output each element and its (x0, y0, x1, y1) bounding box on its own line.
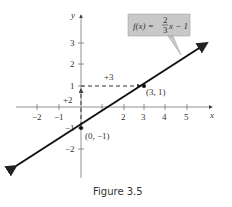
svg-text:y: y (70, 10, 75, 20)
svg-text:3: 3 (163, 25, 168, 35)
svg-text:−2: −2 (65, 144, 75, 154)
svg-text:2: 2 (121, 112, 126, 122)
run-label: +3 (104, 72, 114, 82)
svg-text:x: x (209, 110, 214, 120)
svg-text:1: 1 (70, 81, 75, 91)
svg-text:2: 2 (163, 15, 168, 25)
chart: −2−1 23 45 x 32 1−1 −2 y +3 +2 (0, −1) (… (0, 0, 232, 207)
rise-label: +2 (63, 95, 73, 105)
point-label-3-1: (3, 1) (146, 87, 166, 97)
svg-text:3: 3 (70, 38, 75, 48)
svg-text:2: 2 (70, 59, 75, 69)
svg-text:f(x) =: f(x) = (133, 21, 154, 31)
equation-callout: f(x) = 2 3 x − 1 (128, 14, 190, 55)
svg-text:−1: −1 (54, 112, 64, 122)
svg-text:−2: −2 (32, 112, 42, 122)
svg-text:3: 3 (141, 112, 146, 122)
point-label-0-neg1: (0, −1) (85, 131, 110, 141)
svg-text:x − 1: x − 1 (168, 21, 188, 31)
point-0-neg1 (79, 126, 83, 130)
function-line (16, 43, 207, 166)
figure-caption: Figure 3.5 (93, 186, 143, 197)
svg-text:4: 4 (162, 112, 167, 122)
x-tick-labels: −2−1 23 45 x (32, 110, 214, 122)
svg-text:5: 5 (184, 112, 189, 122)
